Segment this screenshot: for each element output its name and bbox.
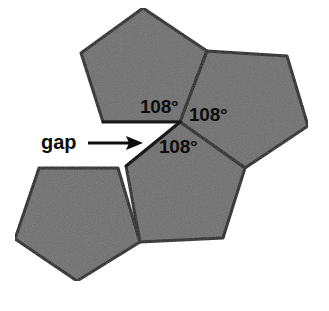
bottom-left-pentagon [15,168,140,281]
gap-label: gap [41,132,77,152]
angle-label-bottom-center-pentagon: 108° [159,137,198,156]
angle-label-right-pentagon: 108° [189,105,228,124]
pentagon-gap-diagram: gap 108° 108° 108° [0,0,329,311]
angle-label-top-left-pentagon: 108° [140,97,179,116]
